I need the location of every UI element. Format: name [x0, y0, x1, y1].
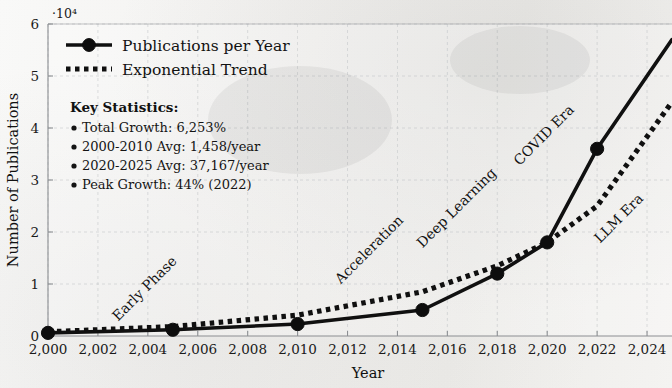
- legend-marker-publications: [83, 39, 96, 52]
- chart-svg: ·10⁴ 0123456 2,0002,0022,0042,0062,0082,…: [0, 0, 672, 388]
- x-tick-label: 2,024: [628, 341, 667, 357]
- x-tick-label: 2,004: [129, 341, 168, 357]
- bullet-icon: [71, 144, 76, 149]
- y-tick-label: 1: [30, 276, 39, 292]
- legend-label-exponential-trend: Exponential Trend: [122, 61, 268, 79]
- data-point-marker: [491, 267, 504, 280]
- x-tick-label: 2,002: [79, 341, 118, 357]
- x-axis-title: Year: [351, 365, 385, 381]
- y-tick-label: 4: [30, 120, 39, 136]
- data-point-marker: [166, 323, 179, 336]
- bullet-icon: [71, 125, 76, 130]
- x-tick-label: 2,010: [278, 341, 317, 357]
- y-tick-label: 2: [30, 224, 39, 240]
- x-tick-label: 2,018: [478, 341, 517, 357]
- legend-label-publications-per-year: Publications per Year: [122, 37, 290, 55]
- bullet-icon: [71, 182, 76, 187]
- y-axis-title: Number of Publications: [5, 93, 21, 267]
- x-tick-label: 2,020: [528, 341, 567, 357]
- y-tick-label: 3: [30, 172, 39, 188]
- x-tick-label: 2,014: [378, 341, 417, 357]
- data-point-marker: [591, 142, 604, 155]
- data-point-marker: [541, 236, 554, 249]
- data-point-marker: [41, 326, 54, 339]
- key-statistics-heading: Key Statistics:: [70, 99, 178, 115]
- x-tick-label: 2,022: [578, 341, 617, 357]
- key-statistic-item: Peak Growth: 44% (2022): [82, 177, 252, 192]
- y-tick-label: 6: [30, 16, 39, 32]
- x-tick-label: 2,006: [178, 341, 217, 357]
- data-point-marker: [291, 317, 304, 330]
- scan-smudge: [450, 26, 590, 94]
- data-point-marker: [416, 303, 429, 316]
- x-tick-label: 2,016: [428, 341, 467, 357]
- x-tick-label: 2,000: [29, 341, 68, 357]
- publications-line-chart: ·10⁴ 0123456 2,0002,0022,0042,0062,0082,…: [0, 0, 672, 388]
- scan-smudge: [208, 66, 392, 174]
- y-tick-label: 5: [30, 68, 39, 84]
- bullet-icon: [71, 163, 76, 168]
- y-axis-multiplier-label: ·10⁴: [52, 6, 77, 21]
- x-tick-label: 2,008: [228, 341, 267, 357]
- key-statistic-item: Total Growth: 6,253%: [82, 120, 226, 135]
- x-tick-label: 2,012: [328, 341, 367, 357]
